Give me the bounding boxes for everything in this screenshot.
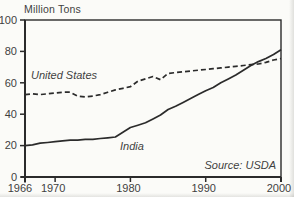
y-tick-label: 100	[0, 14, 17, 26]
series-label-india: India	[120, 140, 144, 152]
y-axis-unit-label: Million Tons	[24, 3, 81, 15]
scan-edge-right	[289, 0, 294, 197]
india-line	[25, 50, 281, 146]
chart: Million Tons United States India Source:…	[0, 0, 294, 197]
y-tick-label: 40	[5, 108, 17, 120]
plot-area: Million Tons United States India Source:…	[0, 0, 294, 197]
scan-edge-bottom	[0, 193, 294, 197]
series-label-united-states: United States	[31, 69, 98, 81]
plot-frame	[25, 20, 281, 177]
y-tick-label: 60	[5, 77, 17, 89]
y-tick-label: 0	[11, 171, 17, 183]
y-tick-label: 80	[5, 45, 17, 57]
source-label: Source: USDA	[204, 159, 276, 171]
y-tick-label: 20	[5, 139, 17, 151]
